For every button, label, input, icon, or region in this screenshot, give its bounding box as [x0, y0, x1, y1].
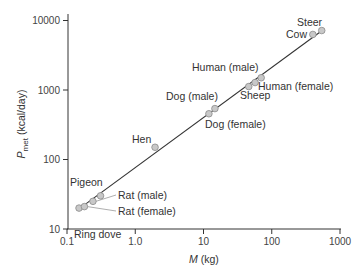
point-label: Steer	[297, 16, 323, 28]
regression-line	[77, 30, 323, 210]
x-tick-label: 0.1	[60, 236, 74, 247]
x-tick-label: 1.0	[128, 236, 142, 247]
point-label: Cow	[286, 28, 307, 40]
point-label: Ring dove	[74, 228, 121, 240]
x-tick-label: 100	[263, 236, 280, 247]
y-ticks: 10100100010000	[32, 15, 68, 235]
point-label: Pigeon	[70, 176, 103, 188]
point-label: Dog (female)	[205, 118, 266, 130]
data-point	[318, 27, 325, 34]
data-point	[206, 110, 213, 117]
data-point	[152, 144, 159, 151]
y-axis-label: Pmet (kcal/day)	[15, 90, 30, 159]
data-point	[81, 203, 88, 210]
point-labels: Ring doveRat (female)Rat (male)PigeonHen…	[70, 16, 333, 240]
y-tick-label: 100	[43, 154, 60, 165]
data-point	[97, 193, 104, 200]
data-point	[212, 105, 219, 112]
point-label: Rat (female)	[118, 205, 176, 217]
point-label: Human (male)	[192, 61, 259, 73]
point-label: Rat (male)	[118, 189, 167, 201]
x-tick-label: 10	[198, 236, 210, 247]
x-axis-label: M (kg)	[189, 253, 219, 265]
y-tick-label: 1000	[38, 85, 61, 96]
data-point	[310, 31, 317, 38]
point-label: Dog (male)	[166, 90, 218, 102]
x-tick-label: 1000	[329, 236, 352, 247]
point-label: Hen	[132, 133, 151, 145]
point-label: Human (female)	[258, 80, 333, 92]
y-tick-label: 10	[49, 224, 61, 235]
data-point	[90, 198, 97, 205]
y-tick-label: 10000	[32, 15, 60, 26]
chart: 10100100010000 0.11.0101001000 Ring dove…	[0, 0, 354, 274]
